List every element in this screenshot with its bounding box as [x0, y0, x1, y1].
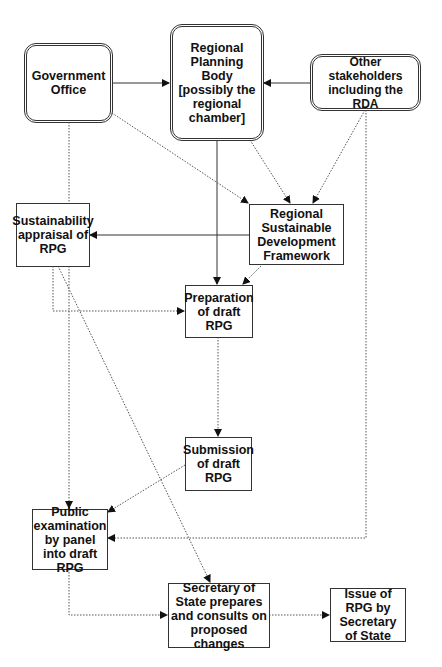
node-public-examination: Public examination by panel into draft R…: [32, 509, 108, 570]
node-regional-sustainable-development-framework: Regional Sustainable Development Framewo…: [249, 204, 344, 265]
node-label: Submission of draft RPG: [183, 443, 254, 485]
node-submission-draft-rpg: Submission of draft RPG: [185, 437, 252, 491]
node-label: Other stakeholders including the RDA: [315, 55, 416, 111]
node-label: Regional Planning Body [possibly the reg…: [175, 41, 259, 125]
node-government-office: Government Office: [24, 43, 113, 123]
node-label: Regional Sustainable Development Framewo…: [252, 207, 341, 263]
node-label: Public examination by panel into draft R…: [34, 505, 107, 575]
node-issue-of-rpg: Issue of RPG by Secretary of State: [330, 588, 406, 642]
node-label: Government Office: [29, 69, 108, 97]
node-label: Sustainability appraisal of RPG: [12, 214, 93, 256]
node-preparation-draft-rpg: Preparation of draft RPG: [185, 285, 253, 338]
node-secretary-of-state: Secretary of State prepares and consults…: [168, 583, 270, 648]
node-label: Secretary of State prepares and consults…: [171, 581, 267, 651]
node-label: Issue of RPG by Secretary of State: [333, 587, 403, 643]
node-sustainability-appraisal: Sustainability appraisal of RPG: [16, 203, 90, 267]
node-other-stakeholders: Other stakeholders including the RDA: [310, 54, 421, 111]
node-regional-planning-body: Regional Planning Body [possibly the reg…: [170, 24, 264, 141]
node-label: Preparation of draft RPG: [184, 291, 253, 333]
